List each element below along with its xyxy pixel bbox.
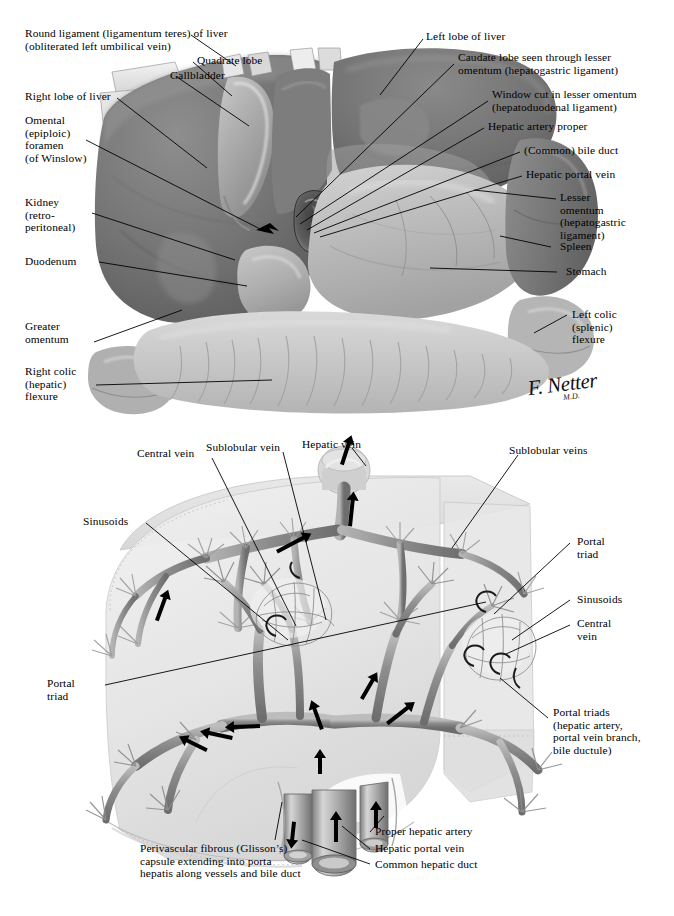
stomach <box>308 165 536 320</box>
label-hepatic-portal-vein-2: Hepatic portal vein <box>375 842 464 855</box>
label-sinusoids-left: Sinusoids <box>83 515 128 528</box>
label-right-lobe-of-liver: Right lobe of liver <box>25 90 111 103</box>
label-caudate-lobe: Caudate lobe seen through lesser omentum… <box>458 51 618 76</box>
bottom-panel-vascular-architecture: Central vein Sublobular vein Hepatic vei… <box>0 430 674 916</box>
label-common-hepatic-duct: Common hepatic duct <box>375 858 478 871</box>
label-central-vein-left: Central vein <box>137 447 194 460</box>
label-proper-hepatic-artery: Proper hepatic artery <box>375 825 473 838</box>
top-panel-gross-anatomy: Round ligament (ligamentum teres) of liv… <box>0 0 674 430</box>
label-hepatic-vein: Hepatic vein <box>302 438 361 451</box>
label-sinusoids-right: Sinusoids <box>577 593 622 606</box>
label-window-cut: Window cut in lesser omentum (hepatoduod… <box>492 88 637 113</box>
netter-anatomy-plate: Round ligament (ligamentum teres) of liv… <box>0 0 674 916</box>
label-round-ligament: Round ligament (ligamentum teres) of liv… <box>25 27 228 52</box>
bottom-panel-artwork <box>0 430 674 916</box>
label-duodenum: Duodenum <box>25 255 76 268</box>
label-glissons-capsule: Perivascular fibrous (Glisson’s) capsule… <box>140 842 301 880</box>
label-stomach: Stomach <box>566 265 607 278</box>
label-left-lobe-of-liver: Left lobe of liver <box>426 30 505 43</box>
label-left-colic-flexure: Left colic (splenic) flexure <box>572 308 617 346</box>
label-spleen: Spleen <box>560 240 592 253</box>
label-common-bile-duct: (Common) bile duct <box>524 144 618 157</box>
label-omental-foramen: Omental (epiploic) foramen (of Winslow) <box>25 114 87 164</box>
label-hepatic-portal-vein: Hepatic portal vein <box>526 168 615 181</box>
label-portal-triad-right: Portal triad <box>577 535 605 560</box>
label-gallbladder: Gallbladder <box>170 69 225 82</box>
label-lesser-omentum: Lesser omentum (hepatogastric ligament) <box>560 191 626 241</box>
label-hepatic-artery-proper: Hepatic artery proper <box>488 120 588 133</box>
label-right-colic-flexure: Right colic (hepatic) flexure <box>25 365 76 403</box>
label-quadrate-lobe: Quadrate lobe <box>197 54 263 67</box>
label-sublobular-vein: Sublobular vein <box>206 441 280 454</box>
label-central-vein-right: Central vein <box>577 617 611 642</box>
label-portal-triad-left: Portal triad <box>47 677 75 702</box>
label-sublobular-veins: Sublobular veins <box>509 444 587 457</box>
label-greater-omentum: Greater omentum <box>25 320 69 345</box>
label-kidney: Kidney (retro- peritoneal) <box>25 196 75 234</box>
label-portal-triads: Portal triads (hepatic artery, portal ve… <box>553 706 641 756</box>
greater-omentum <box>134 311 549 413</box>
